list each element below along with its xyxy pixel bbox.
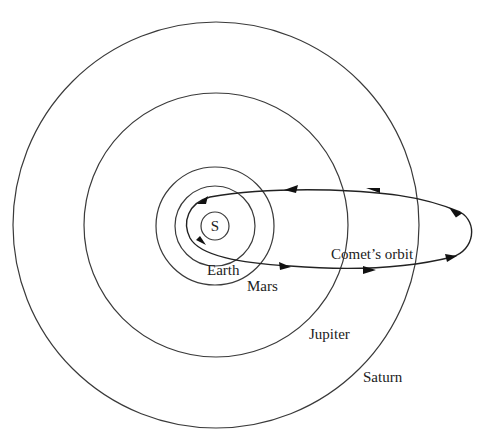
arrow-icon — [284, 185, 298, 193]
sun-label: S — [211, 218, 219, 234]
comet-orbit-label: Comet’s orbit — [331, 246, 414, 262]
arrow-icon — [196, 236, 206, 245]
comet-orbit-path — [187, 190, 472, 269]
saturn-label: Saturn — [363, 369, 403, 385]
mars-label: Mars — [247, 278, 278, 294]
jupiter-label: Jupiter — [309, 326, 350, 342]
earth-label: Earth — [207, 262, 240, 278]
solar-system-diagram: S Earth Mars Jupiter Saturn Comet’s orbi… — [0, 0, 487, 445]
